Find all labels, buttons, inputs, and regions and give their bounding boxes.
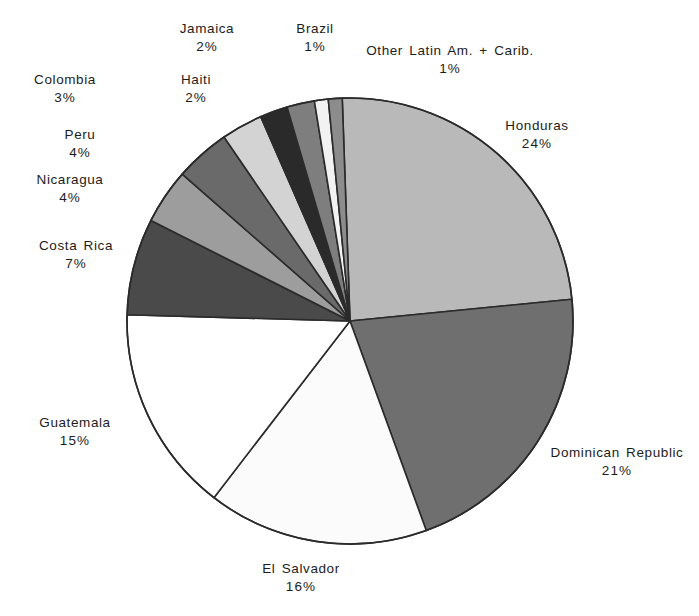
pie-slice-label-name: Other Latin Am. + Carib. [366, 42, 534, 60]
pie-slice-label-jamaica: Jamaica2% [180, 20, 234, 55]
pie-slice-label-name: Nicaragua [37, 171, 104, 189]
pie-slice-label-percent: 16% [262, 578, 340, 596]
pie-slice-label-name: Jamaica [180, 20, 234, 38]
pie-slice-label-nicaragua: Nicaragua4% [37, 171, 104, 206]
pie-slice-label-other: Other Latin Am. + Carib.1% [366, 42, 534, 77]
pie-slice-label-name: Brazil [296, 20, 333, 38]
pie-slice-label-honduras: Honduras24% [505, 117, 568, 152]
pie-slice-label-haiti: Haiti2% [181, 71, 211, 106]
pie-slice-label-percent: 4% [65, 144, 96, 162]
pie-slice-label-percent: 15% [39, 432, 110, 450]
pie-slice-label-percent: 7% [39, 255, 113, 273]
pie-slice-label-domrep: Dominican Republic21% [551, 444, 684, 479]
pie-slice-label-colombia: Colombia3% [34, 71, 96, 106]
pie-slice-label-name: Dominican Republic [551, 444, 684, 462]
pie-slice-label-elsalvador: El Salvador16% [262, 560, 340, 595]
pie-slice-label-name: El Salvador [262, 560, 340, 578]
pie-slice-label-percent: 1% [366, 60, 534, 78]
pie-chart-canvas [0, 0, 699, 616]
pie-slice-label-percent: 2% [181, 89, 211, 107]
pie-slice-label-costarica: Costa Rica7% [39, 237, 113, 272]
pie-slice-label-peru: Peru4% [65, 126, 96, 161]
pie-slice-label-name: Haiti [181, 71, 211, 89]
pie-slice-label-guatemala: Guatemala15% [39, 414, 110, 449]
pie-slice-label-name: Honduras [505, 117, 568, 135]
pie-slice-label-name: Costa Rica [39, 237, 113, 255]
pie-slice-label-brazil: Brazil1% [296, 20, 333, 55]
pie-slice-label-percent: 3% [34, 89, 96, 107]
pie-slice-label-percent: 21% [551, 462, 684, 480]
pie-slice-label-percent: 1% [296, 38, 333, 56]
pie-slice-label-name: Guatemala [39, 414, 110, 432]
pie-slice-label-percent: 24% [505, 135, 568, 153]
pie-chart: Jamaica2%Brazil1%Other Latin Am. + Carib… [0, 0, 699, 616]
pie-slice-label-percent: 4% [37, 189, 104, 207]
pie-slice-label-name: Peru [65, 126, 96, 144]
pie-slice-label-name: Colombia [34, 71, 96, 89]
pie-slice-label-percent: 2% [180, 38, 234, 56]
